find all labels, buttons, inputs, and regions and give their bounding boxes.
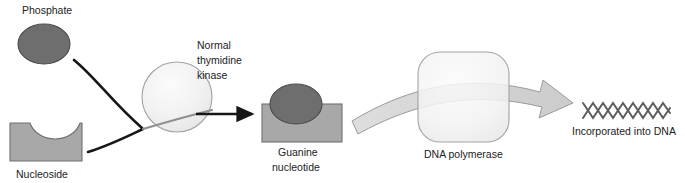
phosphate-label: Phosphate [22, 4, 72, 16]
kinase-group: Normal thymidine kinase [142, 39, 242, 132]
pathway-diagram: Phosphate Nucleoside Normal thymidine ki… [0, 0, 685, 183]
dna-double-helix-icon [583, 103, 670, 118]
phosphate-circle-icon [18, 24, 70, 64]
kinase-label-line2: thymidine [197, 54, 242, 66]
diagram-canvas: Phosphate Nucleoside Normal thymidine ki… [0, 0, 685, 183]
incorporated-into-dna-label: Incorporated into DNA [572, 125, 676, 137]
nucleoside-group: Nucleoside [10, 123, 82, 180]
kinase-label-line1: Normal [197, 39, 231, 51]
phosphate-to-kinase-arrow [74, 60, 142, 128]
dna-polymerase-group: DNA polymerase [418, 52, 509, 160]
nucleoside-notched-block-icon [10, 123, 82, 161]
nucleotide-label-line2: nucleotide [272, 161, 320, 173]
phosphate-group: Phosphate [18, 4, 72, 64]
guanine-nucleotide-group: Guanine nucleotide [262, 84, 342, 173]
dna-polymerase-label: DNA polymerase [424, 148, 503, 160]
nucleotide-phosphate-circle-icon [270, 84, 322, 124]
dna-polymerase-rounded-square-icon [418, 52, 509, 142]
nucleoside-to-kinase-arrow [88, 129, 143, 152]
kinase-label-line3: kinase [197, 69, 228, 81]
nucleoside-label: Nucleoside [16, 168, 68, 180]
nucleotide-label-line1: Guanine [278, 146, 318, 158]
